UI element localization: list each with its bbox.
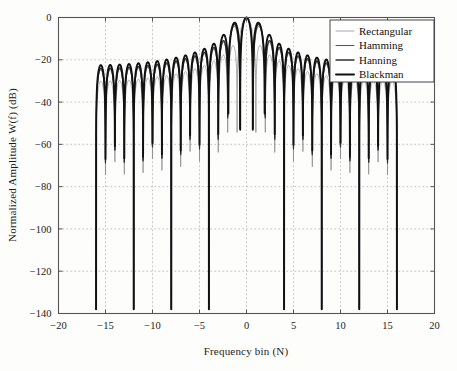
y-tick-labels: 0−20−40−60−80−100−120−140: [30, 12, 52, 319]
y-tick-label: −120: [30, 266, 52, 277]
y-tick-label: −40: [35, 97, 51, 108]
x-tick-label: −20: [50, 320, 66, 331]
legend-label-hanning: Hanning: [359, 54, 397, 66]
y-tick-label: −60: [35, 139, 51, 150]
x-tick-label: −5: [194, 320, 205, 331]
x-tick-label: −15: [97, 320, 113, 331]
x-axis-title: Frequency bin (N): [204, 345, 289, 358]
y-tick-label: −20: [35, 54, 51, 65]
legend-label-hamming: Hamming: [359, 39, 403, 51]
x-tick-label: 0: [244, 320, 249, 331]
y-tick-label: −140: [30, 308, 52, 319]
y-tick-label: −100: [30, 224, 52, 235]
y-axis-title: Normalized Amplitude W(f) (dB): [6, 88, 19, 242]
x-tick-labels: −20−15−10−505101520: [50, 320, 439, 331]
x-tick-label: −10: [144, 320, 160, 331]
x-tick-label: 15: [382, 320, 393, 331]
x-tick-label: 5: [291, 320, 296, 331]
x-tick-label: 10: [335, 320, 346, 331]
chart-canvas: −20−15−10−505101520 0−20−40−60−80−100−12…: [0, 0, 457, 371]
legend: RectangularHammingHanningBlackman: [330, 20, 434, 82]
legend-label-blackman: Blackman: [359, 68, 404, 80]
legend-label-rectangular: Rectangular: [359, 25, 412, 37]
window-function-frequency-response-figure: −20−15−10−505101520 0−20−40−60−80−100−12…: [0, 0, 457, 371]
y-tick-label: 0: [46, 12, 51, 23]
y-tick-label: −80: [35, 181, 51, 192]
x-tick-label: 20: [429, 320, 440, 331]
